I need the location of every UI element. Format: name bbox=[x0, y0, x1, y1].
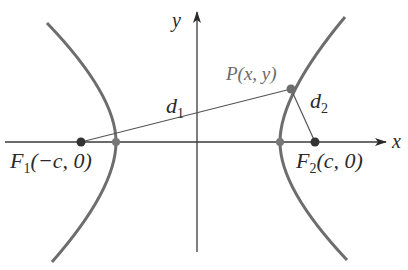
f2-coords: (c, 0) bbox=[316, 148, 362, 173]
segment-d1-label: d1 bbox=[166, 93, 184, 121]
d2-subscript: 2 bbox=[321, 101, 328, 116]
vertex-right-point bbox=[276, 138, 284, 146]
point-p-label: P(x, y) bbox=[225, 63, 277, 85]
focus-f2-label: F2(c, 0) bbox=[295, 148, 363, 176]
hyperbola-diagram: x y P(x, y) d1 d2 F1(−c, 0) F2(c, 0) bbox=[0, 0, 408, 270]
vertex-left-point bbox=[112, 138, 120, 146]
diagram-canvas: x y P(x, y) d1 d2 F1(−c, 0) F2(c, 0) bbox=[0, 0, 408, 270]
d1-subscript: 1 bbox=[177, 106, 184, 121]
x-axis-label: x bbox=[391, 130, 401, 152]
focus-f1-point bbox=[77, 138, 86, 147]
f1-coords: (−c, 0) bbox=[30, 148, 91, 173]
y-axis-label: y bbox=[170, 9, 181, 32]
f1-subscript: 1 bbox=[23, 161, 30, 176]
f1-name: F bbox=[9, 148, 24, 173]
point-p bbox=[287, 85, 296, 94]
segment-d2-label: d2 bbox=[310, 88, 328, 116]
focus-f1-label: F1(−c, 0) bbox=[9, 148, 92, 176]
f2-subscript: 2 bbox=[309, 161, 316, 176]
f2-name: F bbox=[295, 148, 310, 173]
focus-f2-point bbox=[311, 138, 320, 147]
